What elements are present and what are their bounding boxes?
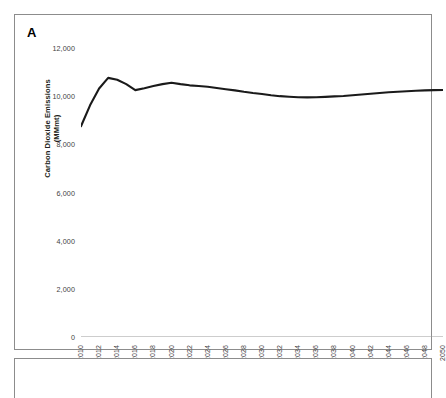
x-tick-label: 2030 bbox=[258, 327, 265, 361]
emissions-line-chart bbox=[81, 48, 443, 337]
x-tick-label: 2044 bbox=[385, 327, 392, 361]
panel-a-chart-frame: A Carbon Dioxide Emissions (MMmt) 12,000… bbox=[14, 14, 432, 350]
x-tick-label: 2038 bbox=[330, 327, 337, 361]
panel-b-chart-frame bbox=[14, 358, 432, 398]
x-tick-label: 2020 bbox=[168, 327, 175, 361]
x-tick-label: 2046 bbox=[403, 327, 410, 361]
y-axis-tick-labels: 12,000 10,000 8,000 6,000 4,000 2,000 0 bbox=[27, 48, 75, 337]
x-tick-label: 2048 bbox=[421, 327, 428, 361]
x-tick-label: 2040 bbox=[349, 327, 356, 361]
plot-area bbox=[81, 48, 443, 337]
x-tick-label: 2050 bbox=[439, 327, 446, 361]
y-tick-label: 10,000 bbox=[29, 92, 75, 101]
x-tick-label: 2022 bbox=[186, 327, 193, 361]
y-tick-label: 12,000 bbox=[29, 44, 75, 53]
x-tick-label: 2042 bbox=[367, 327, 374, 361]
y-tick-label: 4,000 bbox=[29, 236, 75, 245]
x-tick-label: 2028 bbox=[240, 327, 247, 361]
y-tick-label: 2,000 bbox=[29, 284, 75, 293]
x-tick-label: 2018 bbox=[149, 327, 156, 361]
x-tick-label: 2036 bbox=[312, 327, 319, 361]
y-tick-label: 0 bbox=[29, 333, 75, 342]
x-tick-label: 2024 bbox=[204, 327, 211, 361]
y-tick-label: 8,000 bbox=[29, 140, 75, 149]
x-tick-label: 2014 bbox=[113, 327, 120, 361]
y-tick-label: 6,000 bbox=[29, 188, 75, 197]
series-line-co2-emissions bbox=[81, 78, 443, 126]
x-tick-label: 2034 bbox=[294, 327, 301, 361]
x-tick-label: 2026 bbox=[222, 327, 229, 361]
panel-letter-label: A bbox=[27, 25, 37, 40]
x-tick-label: 2032 bbox=[276, 327, 283, 361]
x-tick-label: 2012 bbox=[95, 327, 102, 361]
x-tick-label: 2010 bbox=[77, 327, 84, 361]
x-tick-label: 2016 bbox=[131, 327, 138, 361]
